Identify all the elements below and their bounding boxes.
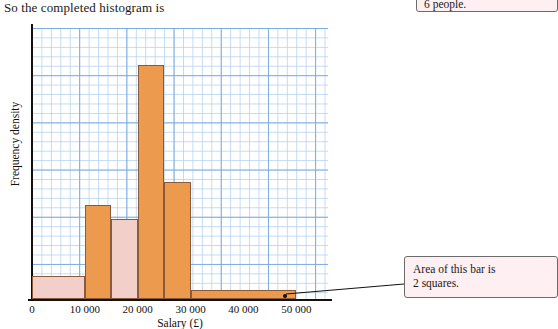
histogram-bar (111, 219, 137, 299)
callout-area-line2: 2 squares. (413, 276, 557, 290)
x-tick-label: 0 (29, 303, 35, 315)
x-tick-label: 40 000 (228, 303, 258, 315)
callout-top-text: 6 people. (424, 0, 466, 10)
histogram-bar (32, 276, 85, 299)
histogram-chart: 010 00020 00030 00040 00050 000 Salary (… (0, 18, 360, 328)
histogram-bar (138, 65, 164, 299)
y-axis-line (31, 24, 33, 301)
callout-area-line1: Area of this bar is (413, 262, 557, 276)
x-tick-label: 20 000 (123, 303, 153, 315)
x-axis-label: Salary (£) (157, 317, 203, 329)
x-tick-label: 10 000 (70, 303, 100, 315)
y-axis-label: Frequency density (9, 74, 21, 214)
x-tick-label: 30 000 (175, 303, 205, 315)
callout-top: 6 people. (416, 0, 558, 12)
page-caption: So the completed histogram is (4, 0, 164, 16)
histogram-bar (85, 205, 111, 299)
x-tick-label: 50 000 (281, 303, 311, 315)
callout-area: Area of this bar is 2 squares. (404, 256, 558, 298)
leader-line (286, 284, 406, 302)
histogram-bar (191, 290, 297, 299)
histogram-bar (164, 182, 190, 299)
